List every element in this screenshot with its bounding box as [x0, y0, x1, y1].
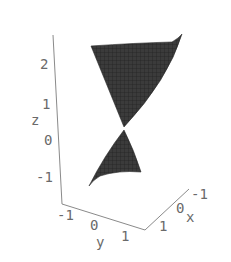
z-tick-neg1: -1 [36, 170, 53, 184]
x-tick-0: 0 [176, 201, 184, 215]
plot-canvas [0, 0, 231, 262]
y-axis-line [62, 204, 145, 230]
y-tick-neg1: -1 [57, 208, 74, 222]
y-axis-label: y [96, 235, 104, 249]
x-tick-1: 1 [159, 219, 167, 233]
x-tick-neg1: -1 [191, 187, 208, 201]
z-tick-1: 1 [42, 97, 50, 111]
z-axis-line [53, 35, 62, 204]
lower-cone-surface [89, 130, 141, 186]
y-tick-1: 1 [121, 229, 129, 243]
z-tick-2: 2 [40, 57, 48, 71]
z-axis-label: z [31, 113, 39, 127]
z-tick-0: 0 [44, 133, 52, 147]
upper-cone-surface [91, 34, 182, 127]
y-tick-0: 0 [90, 218, 98, 232]
surface-plot: 2 1 z 0 -1 -1 0 1 y -1 0 x 1 [0, 0, 231, 262]
x-axis-label: x [186, 210, 194, 224]
